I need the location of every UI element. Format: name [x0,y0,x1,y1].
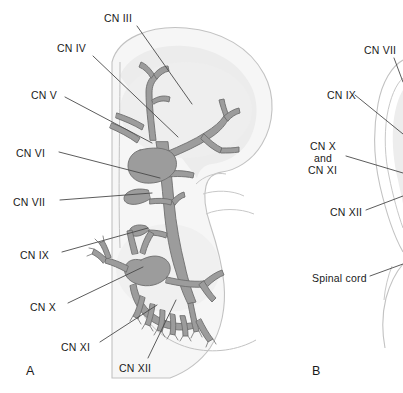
label-cn-vii: CN VII [13,196,45,208]
panel-marker-a: A [26,364,34,378]
label-cn-vii-b: CN VII [364,44,396,56]
label-cn-v: CN V [31,89,57,101]
leader-cn-vii-b [394,58,403,82]
label-cn-xi: CN XI [61,341,90,353]
label-cn-x: CN X [30,301,56,313]
leader-cn-xii-b [366,196,403,210]
panel-marker-b: B [312,364,320,378]
label-cn-x-b: CN X [310,140,336,152]
label-cn-vi: CN VI [16,147,45,159]
label-cn-ix: CN IX [20,249,49,261]
label-spinal-cord-b: Spinal cord [312,272,367,284]
label-cn-ix-b: CN IX [327,89,356,101]
panel-b-silhouette [375,60,403,348]
label-cn-xii: CN XII [119,362,151,374]
label-cn-iv: CN IV [57,42,86,54]
label-cn-xi-b: CN XI [308,164,337,176]
label-cn-iii: CN III [104,12,132,24]
cranial-nerve-figure: CN III CN IV CN V CN VI CN VII CN IX CN … [0,0,403,393]
label-and-b: and [314,152,332,164]
figure-artwork [0,0,403,393]
label-cn-xii-b: CN XII [330,206,362,218]
